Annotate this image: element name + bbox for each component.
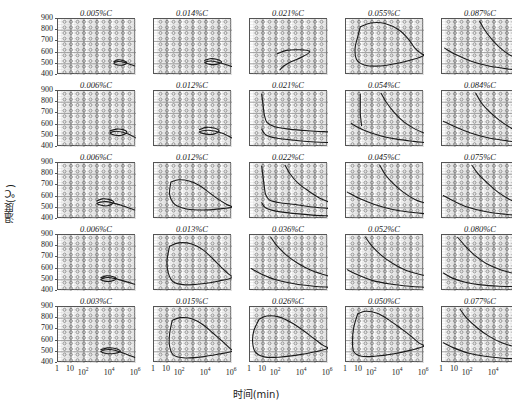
plot-area [57,234,135,290]
y-tick-label: 600 [22,192,53,200]
y-tick-label: 600 [22,48,53,56]
panel-title: 0.050%C [345,296,423,306]
ttt-panel: 0.022%C [249,152,327,218]
y-tick-mark [55,18,57,19]
panel-title: 0.006%C [57,80,135,90]
y-tick-label: 800 [22,169,53,177]
plot-area [345,306,423,362]
y-tick-label: 500 [22,203,53,211]
y-tick-label: 400 [22,142,53,150]
plot-area [57,162,135,218]
y-tick-mark [55,218,57,219]
y-tick-label: 900 [22,302,53,310]
panel-title: 0.075%C [441,152,512,162]
ttt-panel: 0.036%C [249,224,327,290]
ttt-panel: 0.050%C [345,296,423,362]
y-tick-label: 600 [22,264,53,272]
panel-title: 0.084%C [441,80,512,90]
y-tick-mark [55,90,57,91]
y-tick-label: 700 [22,324,53,332]
y-tick-mark [55,340,57,341]
y-tick-label: 800 [22,25,53,33]
y-tick-label: 400 [22,70,53,78]
plot-area [153,234,231,290]
ttt-panel: 0.013%C [153,224,231,290]
transformation-curve [366,237,425,275]
y-axis-label: 温度(℃) [2,0,18,407]
ttt-panel: 0.021%C [249,8,327,74]
panel-title: 0.021%C [249,8,327,18]
plot-area [153,90,231,146]
x-tick-label: 104 [386,365,408,377]
y-tick-label: 900 [22,230,53,238]
y-tick-mark [55,328,57,329]
y-tick-mark [55,101,57,102]
panel-title: 0.014%C [153,8,231,18]
transformation-curve [271,237,328,276]
panel-title: 0.054%C [345,80,423,90]
y-tick-label: 500 [22,131,53,139]
ttt-diagram-figure: 温度(℃) 时间(min) 0.005%C9008007006005004000… [0,0,512,407]
y-tick-mark [55,112,57,113]
y-tick-label: 700 [22,180,53,188]
y-tick-mark [55,63,57,64]
ttt-panel: 0.026%C [249,296,327,362]
plot-area [441,90,512,146]
y-tick-label: 600 [22,120,53,128]
y-tick-mark [55,124,57,125]
ttt-panel: 0.054%C [345,80,423,146]
x-tick-label: 102 [456,365,478,377]
y-tick-mark [55,196,57,197]
x-tick-label: 104 [98,365,120,377]
ttt-panel: 0.006%C [57,224,135,290]
ttt-panel: 0.014%C [153,8,231,74]
plot-area [153,162,231,218]
ttt-panel: 0.003%C [57,296,135,362]
ttt-panel: 0.075%C [441,152,512,218]
ttt-panel: 0.012%C [153,152,231,218]
x-axis-label: 时间(min) [0,386,512,401]
transformation-curve [285,165,328,201]
y-tick-mark [55,135,57,136]
panel-title: 0.026%C [249,296,327,306]
x-tick-label: 106 [508,365,512,377]
ttt-panel: 0.087%C [441,8,512,74]
plot-area [441,162,512,218]
y-tick-mark [55,256,57,257]
y-tick-mark [55,40,57,41]
y-tick-label: 900 [22,14,53,22]
plot-area [57,18,135,74]
panel-title: 0.055%C [345,8,423,18]
panel-title: 0.015%C [153,296,231,306]
panel-grid: 0.005%C9008007006005004000.014%C0.021%C0… [22,6,512,384]
panel-title: 0.013%C [153,224,231,234]
panel-title: 0.012%C [153,152,231,162]
ttt-panel: 0.084%C [441,80,512,146]
panel-title: 0.036%C [249,224,327,234]
panel-title: 0.012%C [153,80,231,90]
y-tick-label: 800 [22,313,53,321]
y-tick-label: 800 [22,97,53,105]
y-tick-mark [55,351,57,352]
y-tick-mark [55,74,57,75]
panel-title: 0.087%C [441,8,512,18]
y-tick-mark [55,173,57,174]
panel-title: 0.006%C [57,152,135,162]
panel-title: 0.006%C [57,224,135,234]
y-tick-label: 400 [22,214,53,222]
y-tick-mark [55,279,57,280]
ttt-panel: 0.055%C [345,8,423,74]
plot-area [345,162,423,218]
y-tick-mark [55,52,57,53]
y-tick-mark [55,268,57,269]
y-tick-label: 700 [22,252,53,260]
plot-area [57,306,135,362]
x-tick-label: 104 [194,365,216,377]
y-tick-mark [55,290,57,291]
ttt-panel: 0.015%C [153,296,231,362]
ttt-panel: 0.006%C [57,152,135,218]
panel-title: 0.052%C [345,224,423,234]
plot-area [249,162,327,218]
plot-area [249,234,327,290]
x-tick-label: 104 [482,365,504,377]
